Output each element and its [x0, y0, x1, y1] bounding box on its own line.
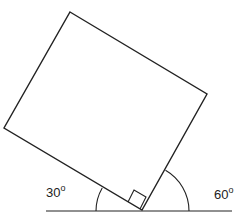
right-angle-marker [128, 190, 146, 209]
geometry-diagram: 30o 60o [0, 0, 245, 223]
tilted-square [4, 12, 207, 210]
right-angle-label: 60o [214, 185, 233, 202]
right-angle-arc [166, 170, 190, 211]
left-angle-arc [96, 188, 102, 211]
left-angle-label: 30o [46, 183, 65, 200]
